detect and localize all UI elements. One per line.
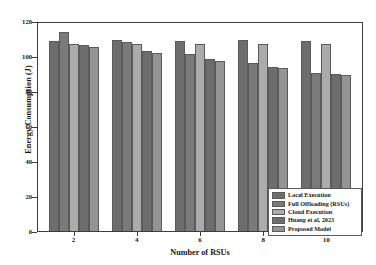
bar xyxy=(122,42,132,231)
x-tick-label: 6 xyxy=(185,236,215,244)
bar-group xyxy=(49,23,99,231)
legend-label: Full Offloading (RSUs) xyxy=(288,201,349,207)
x-tick-label: 8 xyxy=(248,236,278,244)
legend-item: Local Execution xyxy=(272,191,358,199)
legend-item: Proposed Model xyxy=(272,225,358,233)
y-tick-label: 0 xyxy=(12,229,32,236)
bar xyxy=(195,44,205,231)
legend-swatch xyxy=(272,201,285,208)
legend-label: Cloud Execution xyxy=(288,209,332,215)
legend-item: Full Offloading (RSUs) xyxy=(272,200,358,208)
legend-swatch xyxy=(272,192,285,199)
y-tick-mark xyxy=(32,232,37,233)
bar xyxy=(205,59,215,231)
legend-swatch xyxy=(272,226,285,233)
y-tick-label: 120 xyxy=(12,19,32,26)
x-tick-mark xyxy=(263,232,264,236)
y-axis-label: Energy Consumption (J) xyxy=(24,25,33,195)
y-tick-label: 100 xyxy=(12,54,32,61)
legend-item: Cloud Execution xyxy=(272,208,358,216)
bar xyxy=(248,63,258,231)
bar xyxy=(152,53,162,231)
bar xyxy=(69,44,79,231)
x-tick-label: 2 xyxy=(59,236,89,244)
legend-label: Local Execution xyxy=(288,192,331,198)
x-tick-mark xyxy=(137,232,138,236)
chart-figure: Energy Consumption (J) 020406080100120 2… xyxy=(0,0,376,265)
y-tick-label: 20 xyxy=(12,194,32,201)
bar-group xyxy=(112,23,162,231)
bar xyxy=(89,47,99,231)
x-tick-label: 10 xyxy=(311,236,341,244)
bar xyxy=(175,41,185,231)
legend-label: Proposed Model xyxy=(288,226,331,232)
x-tick-mark xyxy=(74,232,75,236)
chart-legend: Local ExecutionFull Offloading (RSUs)Clo… xyxy=(268,188,362,236)
bar xyxy=(132,44,142,231)
x-tick-label: 4 xyxy=(122,236,152,244)
legend-swatch xyxy=(272,209,285,216)
bar xyxy=(258,44,268,231)
bar-group xyxy=(175,23,225,231)
x-tick-mark xyxy=(200,232,201,236)
y-tick-label: 80 xyxy=(12,89,32,96)
legend-swatch xyxy=(272,217,285,224)
bar xyxy=(185,54,195,231)
legend-item: Huang et al, 2023 xyxy=(272,217,358,225)
y-tick-label: 40 xyxy=(12,159,32,166)
y-tick-label: 60 xyxy=(12,124,32,131)
x-axis-label: Number of RSUs xyxy=(37,248,363,257)
bar xyxy=(59,32,69,231)
bar xyxy=(49,41,59,231)
bar xyxy=(112,40,122,231)
bar xyxy=(79,45,89,231)
bar xyxy=(238,40,248,231)
bar xyxy=(142,51,152,231)
legend-label: Huang et al, 2023 xyxy=(288,217,334,223)
bar xyxy=(215,61,225,231)
